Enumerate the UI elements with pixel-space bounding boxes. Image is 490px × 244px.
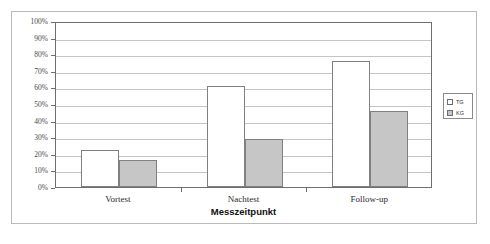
y-axis-tick-label: 10% xyxy=(8,167,48,175)
legend-swatch-tg-icon xyxy=(447,99,453,105)
y-axis-tick-label: 30% xyxy=(8,134,48,142)
plot-area xyxy=(55,22,432,188)
legend-swatch-kg-icon xyxy=(447,110,453,116)
chart-figure: 0%10%20%30%40%50%60%70%80%90%100% Vortes… xyxy=(0,0,490,244)
bar-kg-vortest xyxy=(119,160,157,187)
x-axis-tick-label: Follow-up xyxy=(309,194,429,204)
bar-tg-follow-up xyxy=(332,61,370,187)
x-axis-tick-label: Nachtest xyxy=(184,194,304,204)
gridline xyxy=(56,73,431,74)
bar-tg-vortest xyxy=(81,150,119,187)
y-axis-tick-label: 20% xyxy=(8,151,48,159)
y-axis-tick-label: 90% xyxy=(8,35,48,43)
chart-legend: TG KG xyxy=(443,93,473,119)
y-axis-tick-mark xyxy=(51,188,55,189)
y-axis-tick-label: 50% xyxy=(8,101,48,109)
legend-entry-tg: TG xyxy=(447,97,472,106)
x-axis-tick-mark xyxy=(181,188,182,192)
legend-label-kg: KG xyxy=(456,110,464,116)
gridline xyxy=(56,56,431,57)
x-axis-tick-mark xyxy=(306,188,307,192)
y-axis-tick-label: 100% xyxy=(8,18,48,26)
x-axis-title: Messzeitpunkt xyxy=(55,206,432,217)
y-axis-tick-label: 80% xyxy=(8,51,48,59)
bar-kg-nachtest xyxy=(245,139,283,187)
y-axis-tick-label: 60% xyxy=(8,84,48,92)
legend-entry-kg: KG xyxy=(447,108,472,117)
y-axis-tick-label: 40% xyxy=(8,118,48,126)
legend-label-tg: TG xyxy=(456,99,464,105)
gridline xyxy=(56,40,431,41)
bar-kg-follow-up xyxy=(370,111,408,187)
y-axis-tick-label: 0% xyxy=(8,184,48,192)
bar-tg-nachtest xyxy=(207,86,245,187)
x-axis-tick-label: Vortest xyxy=(58,194,178,204)
y-axis-tick-label: 70% xyxy=(8,68,48,76)
